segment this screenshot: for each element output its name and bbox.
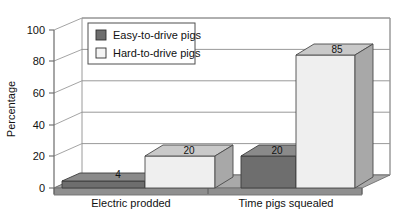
depth-line-20: [54, 144, 82, 156]
bar-g1-hard-front: [145, 156, 215, 188]
legend-label-hard-to-drive: Hard-to-drive pigs: [113, 47, 201, 59]
legend-swatch-easy-to-drive-icon: [96, 30, 106, 40]
y-tick-label-60: 60: [33, 87, 45, 99]
bar-chart-3d: 100 80 60 40 20 0 Percentage 4 20: [0, 0, 415, 220]
bar-value-g1-hard: 20: [183, 145, 195, 156]
y-tick-label-20: 20: [33, 150, 45, 162]
x-category-label-1: Electric prodded: [91, 197, 171, 209]
legend-swatch-hard-to-drive-icon: [96, 48, 106, 58]
bar-g2-easy-front: [241, 156, 296, 188]
legend-label-easy-to-drive: Easy-to-drive pigs: [113, 29, 202, 41]
chart-container: 100 80 60 40 20 0 Percentage 4 20: [0, 0, 415, 220]
y-tick-label-0: 0: [39, 182, 45, 194]
y-axis: 100 80 60 40 20 0 Percentage: [5, 24, 54, 194]
bar-g1-easy-front: [62, 181, 145, 188]
y-tick-label-80: 80: [33, 55, 45, 67]
bar-g2-hard-front: [296, 55, 355, 188]
bar-value-g2-hard: 85: [331, 44, 343, 55]
y-axis-title: Percentage: [5, 81, 17, 137]
y-tick-label-100: 100: [27, 24, 45, 36]
x-category-label-2: Time pigs squealed: [239, 197, 334, 209]
depth-line-80: [54, 49, 82, 61]
depth-line-40: [54, 112, 82, 125]
legend: Easy-to-drive pigs Hard-to-drive pigs: [88, 23, 202, 64]
bar-value-g1-easy: 4: [115, 169, 121, 180]
bar-g2-hard-to-drive[interactable]: 85: [296, 44, 373, 188]
left-wall-depth-lines: [54, 18, 82, 188]
y-axis-ticks: [49, 30, 54, 188]
bar-g2-hard-side: [355, 44, 373, 188]
bar-g1-hard-to-drive[interactable]: 20: [145, 145, 233, 188]
y-tick-label-40: 40: [33, 119, 45, 131]
depth-line-100: [54, 18, 82, 30]
depth-line-60: [54, 81, 82, 93]
bar-value-g2-easy: 20: [271, 145, 283, 156]
